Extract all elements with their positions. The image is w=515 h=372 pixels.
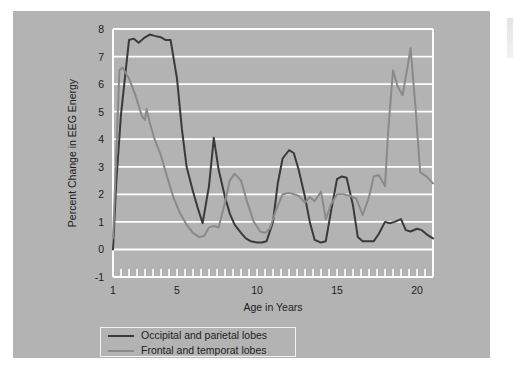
data-series-group xyxy=(113,35,433,250)
legend-item-frontal-temporal: Frontal and temporat lobes xyxy=(101,343,295,358)
y-tick-label: -1 xyxy=(95,271,104,283)
x-axis-title: Age in Years xyxy=(244,301,303,313)
y-axis-tick-labels: -1012345678 xyxy=(95,23,105,283)
series-line-1 xyxy=(113,48,433,238)
y-tick-label: 0 xyxy=(98,243,104,255)
y-tick-label: 3 xyxy=(98,161,104,173)
y-tick-label: 7 xyxy=(98,51,104,63)
legend-item-occipital-parietal: Occipital and parietal lobes xyxy=(101,328,295,343)
x-tick-label: 1 xyxy=(110,284,116,296)
y-tick-label: 1 xyxy=(98,216,104,228)
x-axis-tick-labels: 15101520 xyxy=(110,284,423,296)
y-tick-label: 4 xyxy=(98,133,104,145)
x-tick-label: 10 xyxy=(251,284,263,296)
y-tick-label: 8 xyxy=(98,23,104,35)
legend-label-frontal-temporal: Frontal and temporat lobes xyxy=(141,343,267,358)
legend-swatch-occipital-parietal xyxy=(108,335,134,337)
plot-area: -1012345678 15101520 Age in Years Percen… xyxy=(0,0,515,372)
y-tick-label: 2 xyxy=(98,188,104,200)
minor-xticks-group xyxy=(113,269,433,277)
x-tick-label: 5 xyxy=(174,284,180,296)
legend-label-occipital-parietal: Occipital and parietal lobes xyxy=(141,328,267,343)
y-tick-label: 5 xyxy=(98,106,104,118)
y-tick-label: 6 xyxy=(98,78,104,90)
figure-canvas: -1012345678 15101520 Age in Years Percen… xyxy=(0,0,515,372)
x-tick-label: 15 xyxy=(331,284,343,296)
chart-legend: Occipital and parietal lobes Frontal and… xyxy=(100,327,296,357)
y-axis-title: Percent Change in EEG Energy xyxy=(66,78,78,227)
x-tick-label: 20 xyxy=(411,284,423,296)
line-chart: -1012345678 15101520 Age in Years Percen… xyxy=(0,0,515,372)
legend-swatch-frontal-temporal xyxy=(108,350,134,352)
